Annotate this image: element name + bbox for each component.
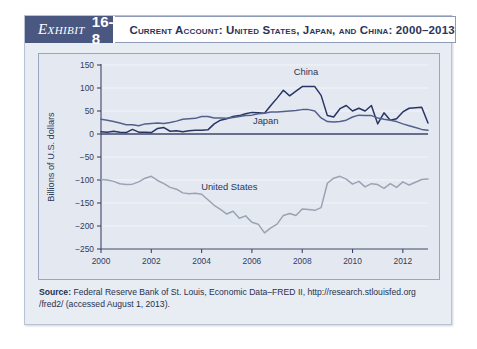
y-tick-label: −100 [75,175,94,185]
series-label-china: China [294,66,319,77]
chart-container: 150100500−50−100−150−200−250200020022004… [38,53,440,280]
exhibit-card: Exhibit 16-8 Current Account: United Sta… [24,15,452,325]
exhibit-number-tag: Exhibit 16-8 [25,16,115,43]
exhibit-header: Exhibit 16-8 Current Account: United Sta… [25,16,451,43]
source-label: Source: [39,287,71,297]
series-label-united-states: United States [201,181,258,192]
y-tick-label: 50 [85,106,95,116]
y-axis-title: Billions of U.S. dollars [46,112,56,202]
source-text: Federal Reserve Bank of St. Louis, Econo… [39,287,416,309]
source-note: Source: Federal Reserve Bank of St. Loui… [39,286,439,310]
x-tick-label: 2004 [192,256,211,266]
x-tick-label: 2000 [92,256,111,266]
exhibit-title: Current Account: United States, Japan, a… [115,16,455,43]
line-chart: 150100500−50−100−150−200−250200020022004… [39,54,439,279]
x-tick-label: 2002 [142,256,161,266]
series-label-japan: Japan [253,115,279,126]
exhibit-word: Exhibit [38,21,85,38]
y-tick-label: 100 [80,83,94,93]
y-tick-label: −50 [80,152,95,162]
exhibit-page: Exhibit 16-8 Current Account: United Sta… [0,0,477,349]
y-tick-label: 0 [89,129,94,139]
y-tick-label: −150 [75,198,94,208]
x-tick-label: 2008 [293,256,312,266]
y-tick-label: 150 [80,60,94,70]
y-tick-label: −250 [75,244,94,254]
x-tick-label: 2010 [343,256,362,266]
exhibit-number: 16-8 [92,13,114,47]
x-tick-label: 2006 [243,256,262,266]
series-line-united-states [101,176,428,233]
y-tick-label: −200 [75,221,94,231]
x-tick-label: 2012 [394,256,413,266]
